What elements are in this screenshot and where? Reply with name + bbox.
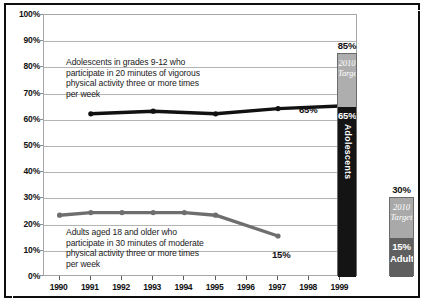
y-tick-label-0: 0% [4,272,40,281]
series-1-point-4 [182,210,187,215]
series-group [57,103,343,238]
series-0-point-0 [88,111,93,116]
y-tick-label-80: 80% [4,62,40,71]
x-tick-mark-1990 [59,276,60,280]
data-label-adolescents-65: 65% [299,104,317,115]
series-0-point-2 [213,111,218,116]
data-label-adults-15: 15% [272,249,290,260]
x-tick-mark-1994 [183,276,184,280]
y-tick-label-90: 90% [4,36,40,45]
target-bar-adolescents-target-segment: 2010 Target [338,54,356,106]
target-bar-adults-top-label: 30% [389,184,414,195]
target-bar-adults-target-segment: 2010 Target [390,198,413,237]
target-bar-adolescents-current-segment: 65% Adolescents [338,107,356,277]
y-tick-label-70: 70% [4,89,40,98]
annotation-adults: Adults aged 18 and older who participate… [66,227,291,269]
target-bar-adults-group-label: Adults [390,253,413,264]
series-1-point-2 [119,210,124,215]
target-bar-adults-target-text: 2010 Target [390,202,413,222]
x-tick-mark-1991 [90,276,91,280]
y-tick-label-20: 20% [4,220,40,229]
x-axis: 1990 1991 1992 1993 1994 1995 1996 1997 … [43,276,357,300]
target-bar-adults-stack: 2010 Target 15% Adults [389,197,414,276]
target-bar-adolescents: 85% 2010 Target 65% Adolescents [337,14,357,276]
y-tick-label-60: 60% [4,115,40,124]
series-0-point-3 [275,106,280,111]
target-bar-adolescents-group-label: Adolescents [342,124,353,180]
series-1-point-1 [88,210,93,215]
target-bar-adults-value-label: 15% [390,241,413,252]
target-bar-adolescents-top-label: 85% [337,40,357,51]
y-tick-label-10: 10% [4,246,40,255]
target-bar-adults: 30% 2010 Target 15% Adults [389,14,414,276]
target-bar-adults-current-segment: 15% Adults [390,238,413,277]
x-tick-mark-1998 [308,276,309,280]
plot-area: Adolescents in grades 9-12 who participa… [43,14,357,276]
target-bar-adolescents-value-label: 65% [338,110,356,121]
target-bar-adolescents-target-text: 2010 Target [338,58,356,78]
series-1-point-3 [151,210,156,215]
y-axis: 100% 90% 80% 70% 60% 50% 40% 30% 20% 10%… [0,14,40,276]
series-1-point-0 [57,213,62,218]
target-bar-adolescents-stack: 2010 Target 65% Adolescents [337,53,357,276]
x-tick-mark-1993 [152,276,153,280]
y-tick-label-30: 30% [4,193,40,202]
y-tick-label-50: 50% [4,141,40,150]
x-tick-mark-1992 [121,276,122,280]
chart-screenshot: 100% 90% 80% 70% 60% 50% 40% 30% 20% 10%… [0,0,424,307]
x-tick-mark-1995 [215,276,216,280]
x-tick-mark-1997 [277,276,278,280]
series-0-point-1 [151,109,156,114]
series-1-point-5 [213,213,218,218]
y-tick-label-100: 100% [4,10,40,19]
x-tick-mark-1996 [246,276,247,280]
annotation-adolescents: Adolescents in grades 9-12 who participa… [66,57,281,99]
x-tick-label-1999: 1999 [319,282,359,292]
y-tick-label-40: 40% [4,167,40,176]
